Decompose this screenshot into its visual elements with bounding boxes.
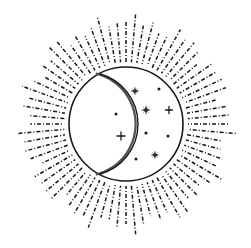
star-dot-3 — [144, 131, 147, 134]
star-dot-5 — [135, 158, 138, 161]
star-dot-shape — [144, 131, 147, 134]
main-disc-group — [69, 67, 183, 181]
star-dot-1 — [158, 88, 161, 91]
main-circle-outline — [69, 67, 183, 181]
celestial-emblem-svg: Circular emblem with radiating dashed su… — [0, 0, 251, 248]
star-dot-4 — [167, 135, 170, 138]
star-dot-shape — [115, 113, 118, 116]
celestial-emblem-artwork: Circular emblem with radiating dashed su… — [0, 0, 251, 248]
star-dot-2 — [115, 113, 118, 116]
star-dot-shape — [158, 88, 161, 91]
star-dot-shape — [135, 158, 138, 161]
star-dot-shape — [167, 135, 170, 138]
